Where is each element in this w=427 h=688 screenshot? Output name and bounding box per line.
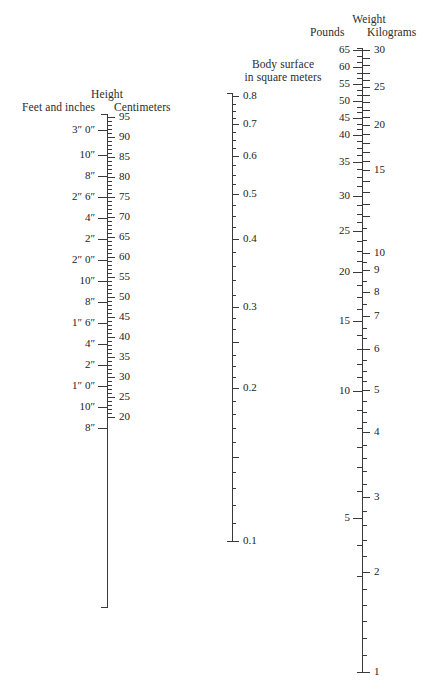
weight-lb-minor-tick [357, 576, 362, 577]
weight-kg-tick [362, 181, 370, 182]
weight-kg-minor-tick [362, 471, 367, 472]
weight-lb-tick-label: 60 [339, 61, 350, 72]
height-cm-tick [107, 253, 112, 254]
weight-pounds-subtitle: Pounds [310, 26, 344, 38]
weight-lb-minor-tick [357, 410, 362, 411]
weight-lb-minor-tick [357, 129, 362, 130]
height-cm-tick [107, 397, 115, 398]
height-cm-tick [107, 369, 112, 370]
weight-kg-tick [362, 152, 370, 153]
height-feet-tick-label: 3″ 0″ [72, 124, 95, 135]
weight-lb-minor-tick [357, 78, 362, 79]
weight-kg-tick [362, 95, 370, 96]
weight-kg-tick [362, 73, 370, 74]
height-cm-tick [107, 129, 112, 130]
bsa-tick [232, 295, 236, 296]
weight-kg-minor-tick [362, 589, 367, 590]
weight-kg-tick [362, 349, 370, 350]
weight-lb-minor-tick [357, 141, 362, 142]
bsa-tick [232, 329, 236, 330]
weight-lb-tick-label: 25 [339, 225, 350, 236]
weight-kg-tick [362, 117, 370, 118]
weight-kg-minor-tick [362, 412, 367, 413]
weight-lb-minor-tick [357, 297, 362, 298]
bsa-title-line2: in square meters [245, 71, 322, 83]
bsa-tick-label: 0.3 [243, 301, 257, 312]
bsa-tick [232, 307, 239, 308]
height-cm-tick [107, 161, 112, 162]
height-cm-tick [107, 333, 112, 334]
weight-kg-minor-tick [362, 556, 367, 557]
height-cm-tick [107, 245, 112, 246]
weight-kg-minor-tick [362, 445, 367, 446]
weight-lb-minor-tick [357, 205, 362, 206]
weight-kg-minor-tick [362, 228, 367, 229]
height-feet-tick [98, 302, 107, 303]
weight-kg-minor-tick [362, 381, 367, 382]
height-cm-tick [107, 153, 112, 154]
height-cm-tick [107, 337, 115, 338]
height-feet-tick-label: 2″ [85, 359, 95, 370]
height-cm-tick [107, 189, 112, 190]
height-feet-tick [98, 281, 107, 282]
weight-lb-minor-tick [357, 56, 362, 57]
height-cm-tick [107, 169, 112, 170]
height-cm-tick [107, 257, 115, 258]
height-cm-tick [107, 233, 112, 234]
weight-kg-tick [362, 270, 370, 271]
weight-lb-minor-tick [357, 90, 362, 91]
weight-kg-tick [362, 65, 370, 66]
weight-lb-minor-tick [357, 73, 362, 74]
height-cm-tick [107, 361, 112, 362]
weight-kg-tick [362, 134, 370, 135]
weight-kg-minor-tick [362, 360, 367, 361]
height-cm-tick [107, 157, 115, 158]
weight-kg-tick [362, 110, 370, 111]
height-cm-tick [107, 141, 112, 142]
bsa-tick [232, 541, 239, 542]
bsa-tick [232, 318, 236, 319]
weight-lb-tick [353, 118, 362, 119]
height-cm-tick [107, 265, 112, 266]
bsa-tick [232, 472, 236, 473]
weight-lb-minor-tick [357, 364, 362, 365]
height-cm-tick [107, 209, 112, 210]
weight-lb-tick [353, 231, 362, 232]
height-cm-tick [107, 309, 112, 310]
height-feet-tick-label: 8″ [85, 296, 95, 307]
height-feet-tick-label: 1″ 6″ [72, 317, 95, 328]
height-cm-tick [107, 313, 112, 314]
weight-kg-tick-label: 7 [374, 310, 380, 321]
height-cm-tick-label: 75 [119, 191, 130, 202]
height-cm-tick-label: 95 [119, 111, 130, 122]
height-cm-tick-label: 40 [119, 331, 130, 342]
height-cm-tick [107, 201, 112, 202]
weight-kg-tick-label: 3 [374, 491, 380, 502]
weight-kg-minor-tick [362, 304, 367, 305]
weight-lb-tick [353, 391, 362, 392]
weight-kg-tick-label: 25 [374, 81, 385, 92]
height-cm-tick [107, 401, 112, 402]
height-cm-tick [107, 225, 112, 226]
weight-lb-tick [353, 321, 362, 322]
height-cm-tick [107, 293, 112, 294]
weight-kg-tick [362, 316, 370, 317]
weight-kg-tick [362, 204, 370, 205]
weight-kg-tick [362, 125, 370, 126]
height-cm-tick [107, 377, 115, 378]
weight-lb-tick-label: 50 [339, 95, 350, 106]
bsa-tick [232, 401, 236, 402]
weight-kg-tick [362, 102, 370, 103]
weight-lb-minor-tick [357, 447, 362, 448]
weight-kg-tick-label: 2 [374, 566, 380, 577]
bsa-tick [232, 111, 236, 112]
height-cm-tick [107, 277, 115, 278]
height-cm-tick [107, 381, 112, 382]
height-cm-tick [107, 385, 112, 386]
height-cm-tick [107, 353, 112, 354]
height-feet-tick-label: 4″ [85, 212, 95, 223]
weight-kg-tick [362, 216, 370, 217]
weight-lb-minor-tick [357, 428, 362, 429]
weight-kg-tick [362, 58, 370, 59]
height-cm-tick [107, 413, 112, 414]
